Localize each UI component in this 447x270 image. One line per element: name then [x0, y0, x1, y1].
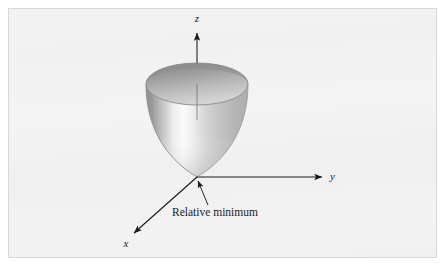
- callout-leader-line: [198, 181, 208, 205]
- paraboloid-surface: [146, 63, 248, 177]
- axis-y: y: [197, 170, 335, 182]
- axis-y-label: y: [329, 170, 335, 182]
- axis-z-label: z: [194, 12, 200, 24]
- paraboloid-diagram: z y x: [0, 0, 447, 270]
- relative-minimum-callout: Relative minimum: [172, 181, 258, 218]
- axis-x-line: [134, 177, 197, 233]
- axis-x-label: x: [123, 237, 129, 249]
- figure-container: z y x: [0, 0, 447, 270]
- relative-minimum-label: Relative minimum: [172, 206, 258, 218]
